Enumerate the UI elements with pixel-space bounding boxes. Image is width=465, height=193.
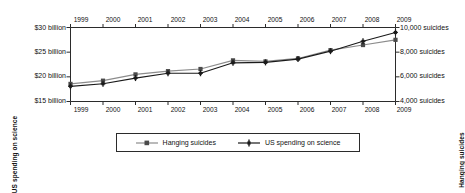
- legend-label-hanging-suicides: Hanging suicides: [163, 139, 216, 146]
- legend-item-hanging-suicides: Hanging suicides: [136, 139, 216, 147]
- legend-label-us-spending-on-science: US spending on science: [265, 139, 341, 146]
- chart-legend: Hanging suicides US spending on science: [116, 133, 360, 152]
- legend-line-swatch-gray: [136, 139, 158, 147]
- legend-line-swatch-black: [238, 139, 260, 147]
- legend-item-us-spending-on-science: US spending on science: [238, 139, 341, 147]
- series-lines: [68, 29, 398, 89]
